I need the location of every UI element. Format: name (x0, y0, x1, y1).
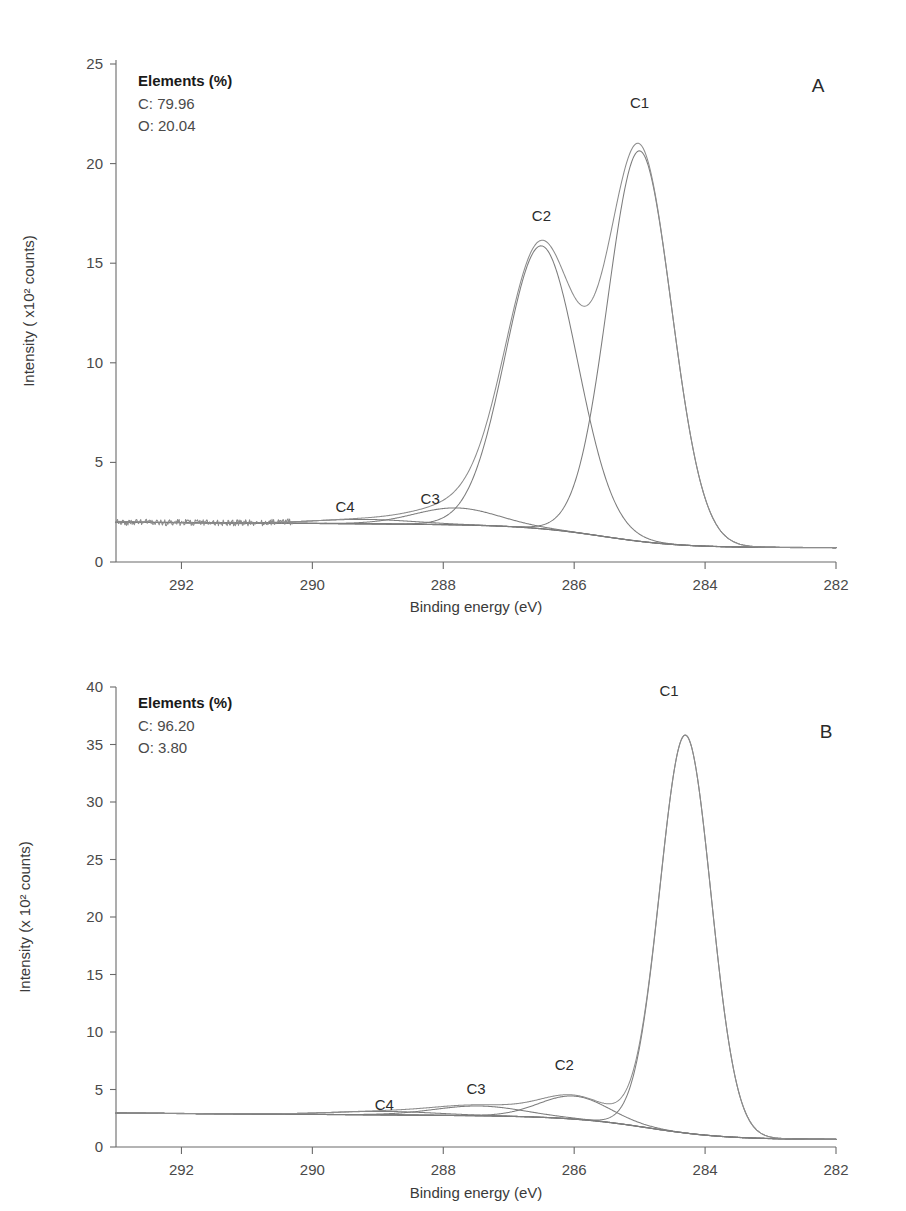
envelope-curve (116, 143, 836, 547)
component-curve-C1 (116, 735, 836, 1139)
y-tick-label: 25 (86, 851, 103, 868)
peak-label-C4: C4 (335, 498, 354, 515)
panel-b-letter: B (820, 721, 833, 742)
peak-label-C4: C4 (375, 1096, 394, 1113)
panel-a-x-ticks: 292290288286284282 (169, 562, 849, 593)
panel-a-plot: 0510152025 292290288286284282 C1C2C3C4 B… (0, 0, 906, 628)
peak-label-C2: C2 (555, 1056, 574, 1073)
peak-label-C2: C2 (532, 207, 551, 224)
peak-label-C1: C1 (630, 94, 649, 111)
x-tick-label: 292 (169, 576, 194, 593)
envelope-curve (116, 735, 836, 1139)
y-tick-label: 15 (86, 254, 103, 271)
component-curve-C2 (116, 246, 836, 548)
background-curve (116, 1113, 836, 1139)
panel-b-axes (116, 687, 836, 1147)
y-tick-label: 30 (86, 793, 103, 810)
panel-a-x-axis-title: Binding energy (eV) (410, 598, 543, 615)
panel-b-legend: Elements (%) C: 96.20 O: 3.80 (138, 694, 232, 756)
panel-a-letter: A (812, 75, 825, 96)
panel-b-y-axis-title: Intensity (x 10² counts) (16, 841, 33, 993)
x-tick-label: 282 (823, 576, 848, 593)
panel-a-y-ticks: 0510152025 (86, 55, 116, 570)
panel-b: 0510152025303540 292290288286284282 C1C2… (0, 628, 906, 1211)
panel-b-legend-oxygen: O: 3.80 (138, 739, 187, 756)
y-tick-label: 35 (86, 736, 103, 753)
component-curve-C4 (116, 519, 836, 547)
panel-b-plot: 0510152025303540 292290288286284282 C1C2… (0, 628, 906, 1211)
y-tick-label: 40 (86, 678, 103, 695)
y-tick-label: 20 (86, 155, 103, 172)
background-curve (116, 522, 836, 547)
x-tick-label: 284 (693, 576, 718, 593)
panel-b-x-axis-title: Binding energy (eV) (410, 1184, 543, 1201)
x-tick-label: 286 (562, 1161, 587, 1178)
panel-a-axes (116, 60, 836, 562)
x-tick-label: 288 (431, 1161, 456, 1178)
panel-a-legend: Elements (%) C: 79.96 O: 20.04 (138, 72, 232, 134)
y-tick-label: 10 (86, 1023, 103, 1040)
panel-a-legend-oxygen: O: 20.04 (138, 117, 196, 134)
panel-a-peak-labels: C1C2C3C4 (335, 94, 649, 515)
x-tick-label: 286 (562, 576, 587, 593)
y-tick-label: 10 (86, 354, 103, 371)
panel-a-curves (116, 143, 836, 547)
panel-b-y-ticks: 0510152025303540 (86, 678, 116, 1155)
panel-a-legend-carbon: C: 79.96 (138, 95, 195, 112)
component-curve-C2 (116, 1096, 836, 1139)
panel-b-curves (116, 735, 836, 1139)
y-tick-label: 5 (95, 1081, 103, 1098)
peak-label-C1: C1 (659, 682, 678, 699)
panel-b-legend-heading: Elements (%) (138, 694, 232, 711)
panel-a-legend-heading: Elements (%) (138, 72, 232, 89)
x-tick-label: 290 (300, 1161, 325, 1178)
x-tick-label: 288 (431, 576, 456, 593)
peak-label-C3: C3 (421, 490, 440, 507)
x-tick-label: 284 (693, 1161, 718, 1178)
panel-b-x-ticks: 292290288286284282 (169, 1147, 849, 1178)
panel-b-legend-carbon: C: 96.20 (138, 717, 195, 734)
peak-label-C3: C3 (466, 1080, 485, 1097)
x-tick-label: 282 (823, 1161, 848, 1178)
panel-b-peak-labels: C1C2C3C4 (375, 682, 679, 1113)
y-tick-label: 0 (95, 1138, 103, 1155)
panel-a-y-axis-title: Intensity ( x10² counts) (20, 235, 37, 387)
panel-a: 0510152025 292290288286284282 C1C2C3C4 B… (0, 0, 906, 628)
xps-figure: 0510152025 292290288286284282 C1C2C3C4 B… (0, 0, 906, 1211)
y-tick-label: 5 (95, 453, 103, 470)
y-tick-label: 15 (86, 966, 103, 983)
y-tick-label: 20 (86, 908, 103, 925)
y-tick-label: 25 (86, 55, 103, 72)
component-curve-C3 (116, 508, 836, 548)
x-tick-label: 292 (169, 1161, 194, 1178)
component-curve-C3 (116, 1106, 836, 1139)
component-curve-C1 (116, 151, 836, 548)
x-tick-label: 290 (300, 576, 325, 593)
y-tick-label: 0 (95, 553, 103, 570)
